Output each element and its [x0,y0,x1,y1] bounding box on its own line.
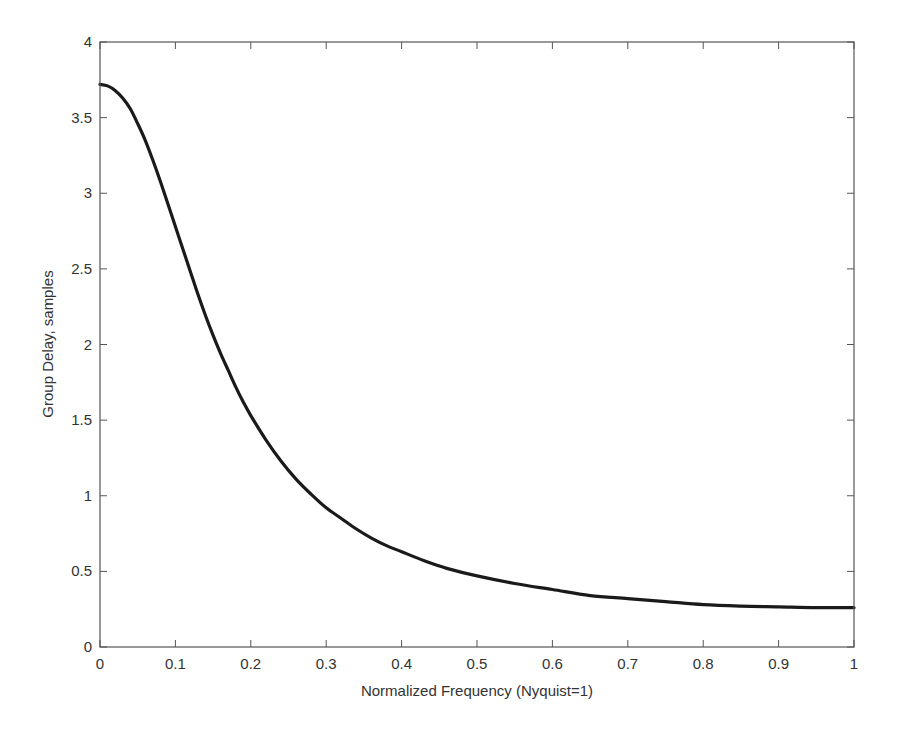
y-axis-label: Group Delay, samples [39,270,56,417]
y-tick-label: 3 [84,184,92,201]
x-axis-label: Normalized Frequency (Nyquist=1) [361,682,593,699]
x-tick-label: 0 [96,655,104,672]
x-tick-label: 0.6 [542,655,563,672]
y-tick-label: 0 [84,638,92,655]
y-tick-label: 1.5 [71,411,92,428]
y-tick-label: 2.5 [71,260,92,277]
y-tick-label: 4 [84,33,92,50]
group-delay-chart: 00.511.522.533.54 00.10.20.30.40.50.60.7… [0,0,898,733]
x-tick-label: 0.5 [467,655,488,672]
x-tick-label: 0.8 [693,655,714,672]
y-tick-label: 2 [84,336,92,353]
x-tick-label: 0.1 [165,655,186,672]
x-tick-label: 0.4 [391,655,412,672]
x-tick-label: 0.3 [316,655,337,672]
y-tick-label: 3.5 [71,109,92,126]
x-tick-label: 0.2 [240,655,261,672]
x-tick-label: 0.7 [617,655,638,672]
y-tick-label: 0.5 [71,562,92,579]
y-tick-label: 1 [84,487,92,504]
x-tick-label: 1 [850,655,858,672]
x-tick-label: 0.9 [768,655,789,672]
plot-background [100,42,854,647]
